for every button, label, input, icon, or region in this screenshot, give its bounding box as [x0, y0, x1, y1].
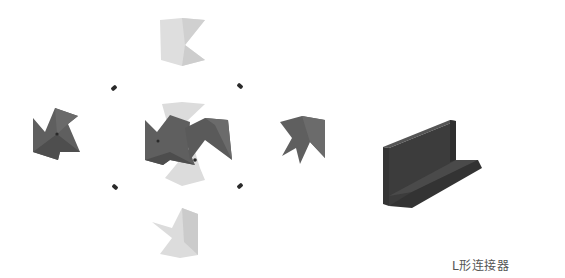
center-assembly	[145, 102, 232, 186]
bottom-light-piece	[152, 208, 198, 258]
diagram-canvas: L形连接器	[0, 0, 565, 278]
figure-caption: L形连接器	[452, 256, 509, 273]
top-light-piece	[160, 18, 205, 66]
l-connector-3d	[383, 120, 482, 208]
right-dark-piece	[280, 116, 325, 164]
left-dark-piece	[33, 108, 80, 160]
